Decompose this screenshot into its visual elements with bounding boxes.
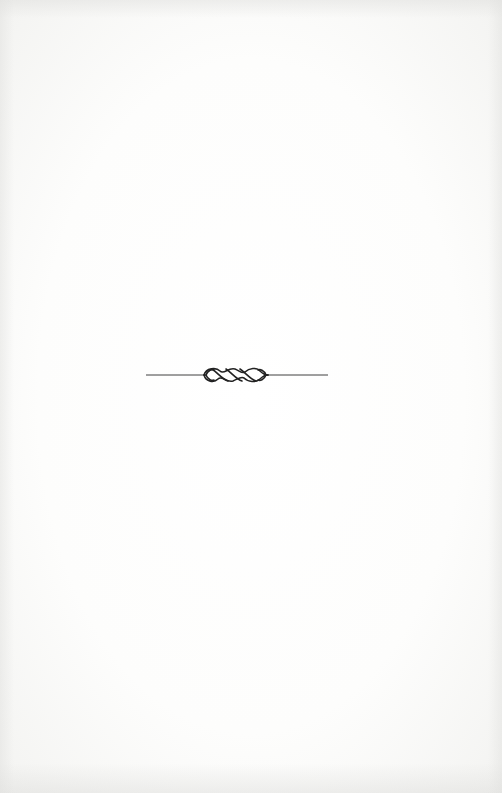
page-shading-top <box>0 0 502 18</box>
page-shading-bottom <box>0 763 502 793</box>
book-page <box>0 0 502 793</box>
page-shading-left <box>0 0 14 793</box>
page-shading-right <box>488 0 502 793</box>
rope-knot-ornament-icon <box>146 365 328 385</box>
decorative-divider-ornament <box>146 365 328 385</box>
